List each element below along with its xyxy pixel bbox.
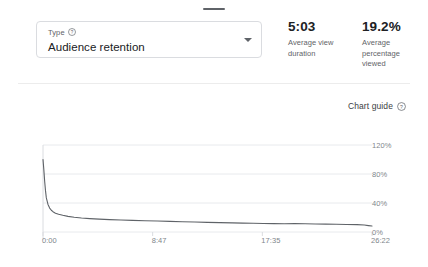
stat-average-percentage-viewed: 19.2% Average percentage viewed [362,18,414,70]
type-select-value: Audience retention [48,39,251,55]
drag-handle-bar[interactable] [203,8,225,10]
section-divider [18,83,410,84]
type-select-label-row: Type ? [48,26,251,38]
svg-text:?: ? [70,30,73,35]
svg-text:?: ? [400,103,403,109]
chart-guide-label: Chart guide [348,101,393,111]
help-circle-icon[interactable]: ? [68,28,76,36]
type-select-label: Type [48,28,65,37]
stat-label: Average percentage viewed [362,38,414,70]
x-axis-tick-label: 26:22 [371,236,390,245]
chevron-down-icon[interactable] [244,38,252,42]
help-circle-icon[interactable]: ? [397,102,406,111]
chart-guide-link[interactable]: Chart guide ? [348,101,406,111]
stats-group: 5:03 Average view duration 19.2% Average… [288,18,414,70]
x-axis-labels: 0:008:4717:3526:22 [0,236,428,256]
stat-label: Average view duration [288,38,340,59]
panel-drag-handle[interactable] [0,0,428,18]
x-axis-tick-label: 0:00 [42,236,57,245]
retention-curve[interactable] [43,160,372,227]
y-axis-tick-label: 120% [372,141,391,150]
y-axis-labels: 120%80%40%0% [372,120,422,240]
x-axis-tick-label: 17:35 [261,236,280,245]
audience-retention-chart[interactable]: 120%80%40%0% 0:008:4717:3526:22 [0,120,428,267]
y-axis-tick-label: 40% [372,199,387,208]
header-row: Type ? Audience retention 5:03 Average v… [0,18,428,80]
type-select-dropdown[interactable]: Type ? Audience retention [36,21,262,58]
x-axis-tick-label: 8:47 [152,236,167,245]
y-axis-tick-label: 80% [372,170,387,179]
stat-value: 5:03 [288,18,340,36]
stat-average-view-duration: 5:03 Average view duration [288,18,340,70]
stat-value: 19.2% [362,18,414,36]
